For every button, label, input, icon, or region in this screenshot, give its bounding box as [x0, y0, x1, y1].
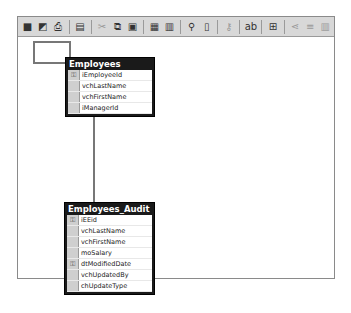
toolbar-separator: [217, 20, 218, 34]
toolbar-separator: [261, 20, 262, 34]
toolbar-separator: [69, 20, 70, 34]
paste-icon[interactable]: ▣: [126, 19, 139, 34]
column-name: vchLastName: [80, 81, 126, 91]
column-name: dtModifiedDate: [79, 259, 131, 269]
column-row[interactable]: chUpdateType: [67, 281, 152, 292]
column-row[interactable]: ⚿dtModifiedDate: [67, 259, 152, 270]
toolbar-separator: [239, 20, 240, 34]
column-name: iEmployeeId: [80, 70, 122, 80]
primary-key-icon: ⚿: [67, 259, 79, 269]
table-employees[interactable]: Employees ⚿iEmployeeIdvchLastNamevchFirs…: [65, 57, 155, 117]
row-selector: [67, 248, 79, 258]
row-selector: [68, 103, 80, 113]
add-table-icon[interactable]: ▥: [163, 19, 176, 34]
cut-icon[interactable]: ✂: [95, 19, 108, 34]
column-row[interactable]: moSalary: [67, 248, 152, 259]
self-relationship-line[interactable]: [33, 41, 70, 43]
diagram-window: ■◩⎙▤✂⧉▣▦▥⚲▯⚷ab⊞⋖≡▥ Employees ⚿iEmployeeI…: [17, 16, 335, 279]
row-selector: [68, 92, 80, 102]
relationship-line[interactable]: [93, 116, 95, 204]
column-row[interactable]: vchLastName: [68, 81, 152, 92]
primary-key-icon: ⚿: [67, 215, 79, 225]
properties-icon[interactable]: ◩: [36, 19, 49, 34]
column-name: vchUpdatedBy: [79, 270, 129, 280]
zoom-icon[interactable]: ⚲: [185, 19, 198, 34]
table-view-icon[interactable]: ▥: [319, 19, 332, 34]
column-row[interactable]: vchUpdatedBy: [67, 270, 152, 281]
toolbar-separator: [143, 20, 144, 34]
table-employees-audit[interactable]: Employees_Audit ⚿iEEidvchLastNamevchFirs…: [64, 202, 155, 295]
page-icon[interactable]: ▯: [200, 19, 213, 34]
new-table-icon[interactable]: ▦: [148, 19, 161, 34]
column-row[interactable]: vchFirstName: [68, 92, 152, 103]
print-icon[interactable]: ⎙: [51, 19, 64, 34]
indexes-icon[interactable]: ≡: [304, 19, 317, 34]
self-relationship-line[interactable]: [33, 41, 35, 63]
diagram-canvas[interactable]: Employees ⚿iEmployeeIdvchLastNamevchFirs…: [18, 37, 334, 278]
row-selector: [67, 270, 79, 280]
copy-icon[interactable]: ⧉: [111, 19, 124, 34]
row-selector: [67, 226, 79, 236]
row-selector: [68, 81, 80, 91]
primary-key-icon[interactable]: ⚷: [222, 19, 235, 34]
label-icon[interactable]: ab: [244, 19, 257, 34]
arrange-tables-icon[interactable]: ⊞: [266, 19, 279, 34]
column-name: moSalary: [79, 248, 112, 258]
column-name: chUpdateType: [79, 281, 127, 291]
column-row[interactable]: vchFirstName: [67, 237, 152, 248]
save-icon[interactable]: ■: [21, 19, 34, 34]
toolbar-separator: [284, 20, 285, 34]
toolbar-separator: [91, 20, 92, 34]
relationships-icon[interactable]: ⋖: [288, 19, 301, 34]
column-name: vchFirstName: [80, 92, 126, 102]
column-row[interactable]: iManagerId: [68, 103, 152, 114]
primary-key-icon: ⚿: [68, 70, 80, 80]
toolbar-separator: [180, 20, 181, 34]
row-selector: [67, 281, 79, 291]
column-name: iEEid: [79, 215, 97, 225]
column-name: iManagerId: [80, 103, 118, 113]
column-row[interactable]: ⚿iEmployeeId: [68, 70, 152, 81]
diagram-toolbar: ■◩⎙▤✂⧉▣▦▥⚲▯⚷ab⊞⋖≡▥: [18, 17, 334, 37]
self-relationship-line[interactable]: [33, 62, 66, 64]
table-title: Employees: [68, 58, 152, 70]
column-name: vchLastName: [79, 226, 125, 236]
column-row[interactable]: ⚿iEEid: [67, 215, 152, 226]
table-title: Employees_Audit: [67, 203, 152, 215]
column-row[interactable]: vchLastName: [67, 226, 152, 237]
column-name: vchFirstName: [79, 237, 125, 247]
layout-icon[interactable]: ▤: [73, 19, 86, 34]
row-selector: [67, 237, 79, 247]
